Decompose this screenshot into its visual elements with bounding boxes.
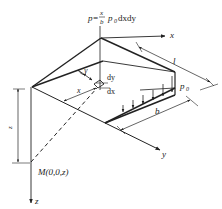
formula-denominator: b	[100, 18, 104, 26]
dy-label: dy	[107, 73, 115, 82]
top-ridge	[101, 38, 175, 72]
formula-tail: dxdy	[118, 13, 137, 23]
width-label: b	[155, 106, 160, 116]
load-top	[140, 88, 175, 90]
load-hyp	[105, 88, 175, 123]
load-base	[105, 95, 175, 123]
p0-label: p	[179, 81, 185, 91]
formula-p-sub: 0	[114, 18, 117, 24]
svg-text:p=: p=	[87, 13, 99, 23]
p0-sub-label: 0	[186, 86, 189, 92]
inner-ridge	[32, 61, 103, 87]
dx-label: dx	[107, 87, 115, 96]
left-ridge	[32, 38, 101, 87]
x-axis	[101, 36, 165, 38]
x-axis-label: x	[169, 30, 174, 40]
length-label: l	[173, 56, 176, 66]
point-M-label: M(0,0,z)	[37, 167, 69, 177]
y-angle-label: y	[83, 66, 88, 75]
z-dim-label: z	[6, 126, 14, 130]
y-axis-label: y	[161, 149, 166, 159]
z-axis-label: z	[34, 196, 39, 206]
element-dxdy	[94, 80, 104, 88]
diagram-canvas: p= x b p 0 dxdy x y z l b p 0 dy dx x y …	[0, 0, 222, 209]
dashed-ray	[31, 88, 97, 162]
y-axis	[32, 87, 160, 150]
formula-numerator: x	[99, 9, 104, 17]
x-dim-label: x	[76, 86, 81, 95]
formula-p: p	[107, 13, 113, 23]
